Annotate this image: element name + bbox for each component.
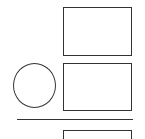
bottom-rectangle-partial <box>63 130 132 139</box>
middle-rectangle <box>63 63 132 111</box>
circle-shape <box>13 63 56 108</box>
top-rectangle <box>63 7 132 56</box>
horizontal-divider <box>17 119 133 120</box>
